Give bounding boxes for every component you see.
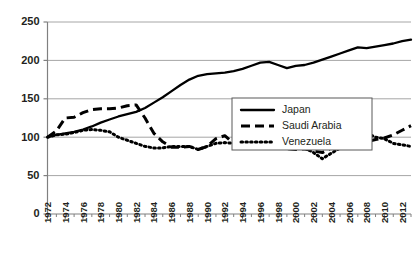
- x-tick-label-2008: 2008: [361, 202, 372, 223]
- x-tick-label-1980: 1980: [113, 202, 124, 223]
- x-tick-label-1986: 1986: [166, 202, 177, 223]
- y-tick-label-200: 200: [21, 54, 39, 66]
- x-tick-label-2012: 2012: [397, 202, 408, 223]
- x-tick-label-1976: 1976: [78, 202, 89, 223]
- x-tick-label-1988: 1988: [184, 202, 195, 223]
- legend-label-saudi-arabia: Saudi Arabia: [282, 119, 342, 131]
- x-tick-label-1994: 1994: [237, 201, 248, 223]
- chart-canvas: 2502001501005001972197419761978198019821…: [0, 0, 419, 260]
- y-tick-label-150: 150: [21, 92, 39, 104]
- y-tick-label-0: 0: [33, 207, 39, 219]
- y-tick-label-100: 100: [21, 131, 39, 143]
- x-tick-label-1978: 1978: [95, 202, 106, 223]
- y-tick-label-250: 250: [21, 15, 39, 27]
- x-tick-label-1972: 1972: [42, 202, 53, 223]
- y-tick-label-50: 50: [27, 169, 39, 181]
- x-tick-label-2004: 2004: [326, 201, 337, 223]
- legend-label-venezuela: Venezuela: [282, 135, 331, 147]
- x-tick-label-2000: 2000: [290, 202, 301, 223]
- x-tick-label-1990: 1990: [202, 202, 213, 223]
- legend-label-japan: Japan: [282, 103, 311, 115]
- x-tick-label-1998: 1998: [273, 202, 284, 223]
- x-tick-label-1996: 1996: [255, 202, 266, 223]
- x-tick-label-1974: 1974: [60, 201, 71, 223]
- x-tick-label-1992: 1992: [219, 202, 230, 223]
- x-tick-label-2006: 2006: [344, 202, 355, 223]
- line-chart: 2502001501005001972197419761978198019821…: [0, 0, 419, 260]
- x-tick-label-2010: 2010: [379, 202, 390, 223]
- x-tick-label-1982: 1982: [131, 202, 142, 223]
- x-tick-label-2002: 2002: [308, 202, 319, 223]
- x-tick-label-1984: 1984: [148, 201, 159, 223]
